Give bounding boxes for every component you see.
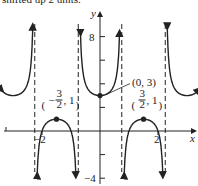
secant-branch [167,27,198,96]
secant-branch [1,27,32,96]
x-axis-label: x [189,132,195,144]
svg-text:, 1: , 1 [147,94,158,106]
point-label: (−32, 1) [42,87,80,112]
key-point [141,117,146,122]
svg-text:(: ( [42,99,46,112]
x-tick-label: −2 [34,133,46,145]
key-point [97,93,102,98]
y-axis-label: y [90,7,96,19]
y-tick-label: −4 [84,172,96,184]
svg-text:2: 2 [57,98,63,110]
y-tick-label: 8 [89,31,95,43]
svg-text:2: 2 [140,98,146,110]
x-tick-label: 2 [154,133,160,145]
svg-text:, 1: , 1 [64,94,75,106]
point-label: (32, 1) [132,87,163,112]
key-point [54,117,59,122]
svg-text:): ) [76,99,80,112]
svg-text:−: − [49,94,55,106]
secant-branch [37,119,76,175]
svg-text:): ) [159,99,163,112]
secant-branch [124,119,163,175]
svg-text:(: ( [132,99,136,112]
secant-graph: yx8−4−22(0, 3)(−32, 1)(32, 1) [0,0,198,186]
